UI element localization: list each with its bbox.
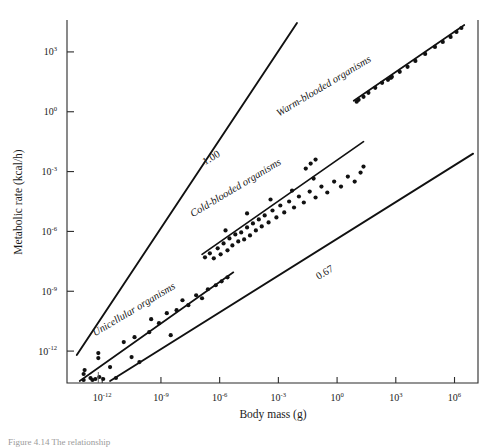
data-point [186,303,190,307]
data-point [203,255,207,259]
data-point [292,205,296,209]
data-point [200,296,204,300]
data-point [287,199,291,203]
data-point [390,75,394,79]
data-point [147,330,151,334]
data-point [339,184,343,188]
data-point [325,190,329,194]
data-point [149,317,153,321]
data-point [319,184,323,188]
data-point [137,360,141,364]
data-point [353,179,357,183]
data-point [398,70,402,74]
data-point [83,368,87,372]
data-point [405,65,409,69]
data-point [302,200,306,204]
data-point [308,189,312,193]
data-point [108,365,112,369]
data-point [454,30,458,34]
data-point [361,164,365,168]
data-point [361,95,365,99]
data-point [208,251,212,255]
data-point [251,221,255,225]
data-point [254,228,258,232]
data-point [358,170,362,174]
data-point [413,59,417,63]
data-point [101,377,105,381]
data-point [242,237,246,241]
data-point [180,298,184,302]
data-point [366,91,370,95]
data-point [221,241,225,245]
data-point [278,203,282,207]
data-point [230,243,234,247]
data-point [357,98,361,102]
data-point [82,372,86,376]
data-point [270,208,274,212]
data-point [459,26,463,30]
data-point [263,213,267,217]
data-point [216,246,220,250]
data-point [206,287,210,291]
data-point [274,215,278,219]
data-point [248,233,252,237]
data-point [433,45,437,49]
data-point [268,197,272,201]
data-point [225,275,229,279]
data-point [175,308,179,312]
data-point [313,158,317,162]
data-point [245,211,249,215]
data-point [227,236,231,240]
data-point [309,162,313,166]
x-axis-title: Body mass (g) [239,408,306,421]
data-point [157,321,161,325]
data-point [214,283,218,287]
data-point [441,40,445,44]
data-point [97,375,101,379]
data-point [266,220,270,224]
y-axis-title: Metabolic rate (kcal/h) [12,149,25,255]
data-point [96,356,100,360]
data-point [239,230,243,234]
data-point [346,174,350,178]
data-point [282,210,286,214]
data-point [449,35,453,39]
data-point [212,256,216,260]
data-point [373,86,377,90]
data-point [245,225,249,229]
data-point [233,232,237,236]
data-point [423,52,427,56]
data-point [380,81,384,85]
data-point [220,279,224,283]
data-point [82,378,86,382]
data-point [219,252,223,256]
data-point [257,217,261,221]
data-point [297,194,301,198]
data-point [290,188,294,192]
data-point [260,224,264,228]
data-point [93,377,97,381]
data-point [165,311,169,315]
data-point [304,166,308,170]
data-point [122,340,126,344]
figure-caption: Figure 4.14 The relationship [8,437,110,447]
data-point [194,293,198,297]
data-point [96,351,100,355]
data-point [132,335,136,339]
data-point [114,376,118,380]
data-point [169,333,173,337]
data-point [312,176,316,180]
data-point [313,195,317,199]
data-point [332,179,336,183]
data-point [236,239,240,243]
data-point [223,228,227,232]
data-point [129,355,133,359]
data-point [225,248,229,252]
